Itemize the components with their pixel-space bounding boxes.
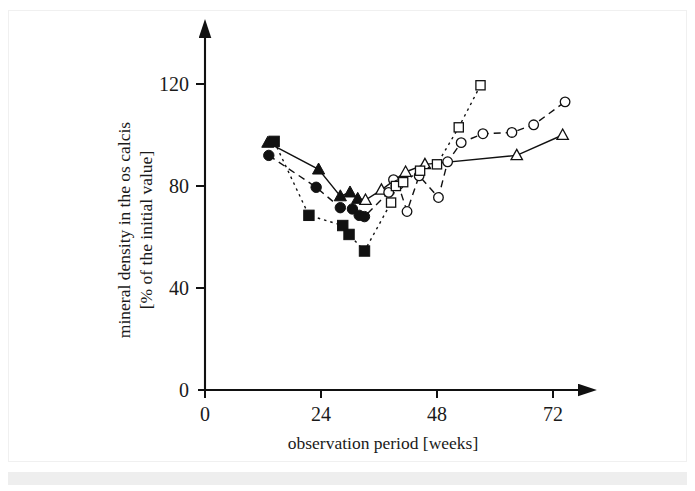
y-tick-label: 120 <box>159 73 189 95</box>
y-axis-title-line2: [% of the initial value] <box>136 151 156 309</box>
data-point-circle-open <box>402 207 412 217</box>
data-point-triangle-filled <box>344 186 356 197</box>
data-point-triangle-open <box>557 129 568 139</box>
y-tick-label: 0 <box>179 379 189 401</box>
data-point-square-open <box>432 160 441 169</box>
y-axis-title-line1: mineral density in the os calcis <box>114 122 134 338</box>
data-point-circle-filled <box>264 150 274 160</box>
data-point-circle-filled <box>359 211 369 221</box>
data-point-square-filled <box>344 229 354 239</box>
x-axis-title: observation period [weeks] <box>288 433 479 453</box>
scatter-chart: 040801200244872observation period [weeks… <box>0 0 695 491</box>
x-tick-label: 48 <box>427 403 447 425</box>
x-tick-label: 0 <box>200 403 210 425</box>
data-point-square-filled <box>269 136 279 146</box>
data-point-circle-open <box>529 120 539 130</box>
data-point-circle-open <box>507 128 517 138</box>
series-circle <box>264 97 570 222</box>
data-point-circle-open <box>456 138 466 148</box>
y-tick-label: 40 <box>169 277 189 299</box>
data-point-square-filled <box>359 246 369 256</box>
y-tick-label: 80 <box>169 175 189 197</box>
data-point-circle-open <box>478 129 488 139</box>
data-point-circle-open <box>443 157 453 167</box>
data-point-square-filled <box>304 210 314 220</box>
x-tick-label: 72 <box>543 403 563 425</box>
data-point-triangle-open <box>511 149 522 159</box>
data-point-circle-open <box>434 193 444 203</box>
data-point-circle-filled <box>311 182 321 192</box>
data-point-triangle-filled <box>313 163 325 174</box>
data-point-circle-filled <box>335 202 345 212</box>
data-point-circle-open <box>560 97 570 107</box>
data-point-square-open <box>399 178 408 187</box>
x-tick-label: 24 <box>311 403 331 425</box>
data-point-square-open <box>476 81 485 90</box>
data-point-square-open <box>415 166 424 175</box>
data-point-square-open <box>386 198 395 207</box>
series-square <box>269 81 485 257</box>
data-point-square-open <box>454 123 463 132</box>
series-line <box>274 85 480 251</box>
figure-root: 040801200244872observation period [weeks… <box>0 0 695 491</box>
